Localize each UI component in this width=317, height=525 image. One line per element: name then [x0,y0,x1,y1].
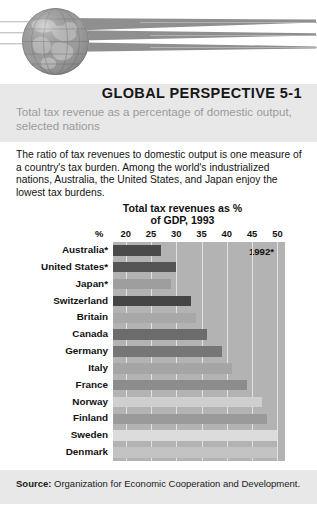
globe-svg [22,8,89,75]
bar [113,397,262,407]
chart-row: Finland [0,410,317,427]
x-axis-tick-30: 30 [171,228,181,239]
chart-row: Britain [0,309,317,326]
globe-icon [22,8,89,75]
header-graphic [0,0,317,84]
bar [113,430,277,440]
chart-row: Germany [0,343,317,360]
x-axis-tick-25: 25 [146,228,156,239]
bar [113,329,207,339]
bar-chart: Total tax revenues as % of GDP, 1993 %20… [0,203,317,470]
bottom-padding [0,504,317,525]
source-line: Source: Organization for Economic Cooper… [16,478,306,489]
country-label: Canada [0,328,108,339]
bar [113,296,191,306]
x-axis-tick-50: 50 [272,228,282,239]
country-label: Germany [0,345,108,356]
bar [113,279,171,289]
x-axis-tick-40: 40 [222,228,232,239]
country-label: Italy [0,362,108,373]
country-label: Denmark [0,446,108,457]
bar [113,313,196,323]
chart-row: Switzerland [0,293,317,310]
global-perspective-figure: GLOBAL PERSPECTIVE 5-1 Total tax revenue… [0,0,317,525]
country-label: Japan* [0,278,108,289]
bar [113,447,277,457]
country-label: Norway [0,396,108,407]
x-axis-unit-label: % [95,228,103,239]
chart-row: Norway [0,394,317,411]
country-label: United States* [0,261,108,272]
chart-row: Canada [0,326,317,343]
bar [113,245,161,255]
title-band: GLOBAL PERSPECTIVE 5-1 Total tax revenue… [0,84,317,142]
bar [113,262,176,272]
body-paragraph: The ratio of tax revenues to domestic ou… [16,149,304,199]
chart-row: Sweden [0,427,317,444]
country-label: Finland [0,412,108,423]
page-title: GLOBAL PERSPECTIVE 5-1 [0,85,302,101]
country-label: Switzerland [0,295,108,306]
chart-title: Total tax revenues as % of GDP, 1993 [60,203,305,226]
chart-title-line2: of GDP, 1993 [60,215,305,227]
x-axis-tick-45: 45 [247,228,257,239]
chart-row: Denmark [0,444,317,461]
chart-row: Japan* [0,276,317,293]
bar-rows: Australia*United States*Japan*Switzerlan… [0,242,317,461]
x-axis-tick-35: 35 [196,228,206,239]
bar [113,380,247,390]
x-axis-ticks: %20253035404550 [0,228,317,240]
chart-row: France [0,377,317,394]
chart-title-line1: Total tax revenues as % [60,203,305,215]
source-label: Source: [16,478,51,489]
country-label: Britain [0,311,108,322]
country-label: France [0,379,108,390]
page-subtitle: Total tax revenue as a percentage of dom… [16,105,304,133]
source-text: Organization for Economic Cooperation an… [54,478,300,489]
chart-row: Italy [0,360,317,377]
bar [113,363,232,373]
footer-band: Source: Organization for Economic Cooper… [0,470,317,504]
country-label: Australia* [0,244,108,255]
country-label: Sweden [0,429,108,440]
chart-row: United States* [0,259,317,276]
bar [113,346,222,356]
x-axis-tick-20: 20 [120,228,130,239]
bar [113,414,267,424]
chart-row: Australia* [0,242,317,259]
